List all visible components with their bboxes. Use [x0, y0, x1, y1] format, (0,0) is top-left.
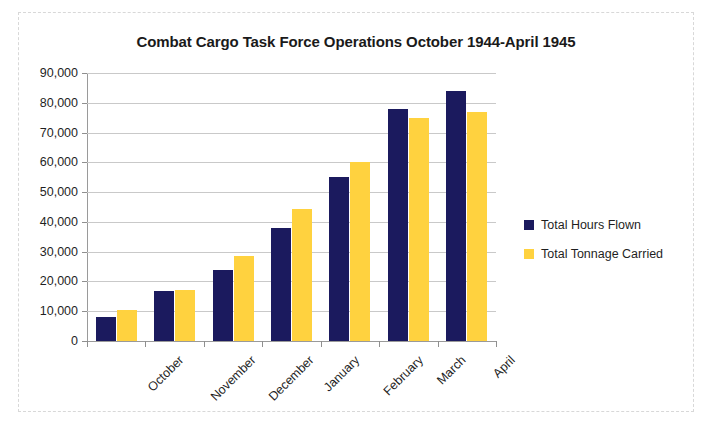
- plot-area: 010,00020,00030,00040,00050,00060,00070,…: [87, 73, 496, 341]
- y-axis-label: 10,000: [40, 304, 78, 318]
- chart-legend: Total Hours FlownTotal Tonnage Carried: [524, 218, 663, 276]
- chart-title: Combat Cargo Task Force Operations Octob…: [19, 33, 693, 50]
- y-axis-tick: [82, 281, 87, 282]
- x-axis-label: November: [208, 353, 259, 404]
- bar-group: [388, 73, 429, 341]
- chart-frame: Combat Cargo Task Force Operations Octob…: [18, 12, 694, 412]
- x-axis-label: December: [266, 353, 317, 404]
- bar[interactable]: [446, 91, 466, 341]
- bar[interactable]: [292, 209, 312, 342]
- bar[interactable]: [96, 317, 116, 341]
- bar-group: [96, 73, 137, 341]
- legend-label: Total Tonnage Carried: [541, 247, 663, 261]
- x-axis-tick: [262, 341, 263, 347]
- bar-group: [271, 73, 312, 341]
- legend-item[interactable]: Total Hours Flown: [524, 218, 663, 232]
- bar[interactable]: [213, 270, 233, 341]
- y-axis-label: 70,000: [40, 126, 78, 140]
- y-axis-tick: [82, 133, 87, 134]
- bar-group: [154, 73, 195, 341]
- y-axis-label: 80,000: [40, 96, 78, 110]
- bar[interactable]: [175, 290, 195, 341]
- bar-group: [446, 73, 487, 341]
- y-axis-tick: [82, 73, 87, 74]
- gridline: [87, 341, 496, 342]
- y-axis-label: 20,000: [40, 274, 78, 288]
- x-axis-label: February: [381, 353, 426, 398]
- bar-group: [213, 73, 254, 341]
- x-axis-label: March: [435, 353, 469, 387]
- x-axis-tick: [379, 341, 380, 347]
- bar[interactable]: [467, 112, 487, 341]
- x-axis-tick: [438, 341, 439, 347]
- y-axis-label: 90,000: [40, 66, 78, 80]
- bar[interactable]: [271, 228, 291, 341]
- bar[interactable]: [154, 291, 174, 341]
- x-axis-tick: [145, 341, 146, 347]
- bar[interactable]: [329, 177, 349, 341]
- x-axis-tick: [87, 341, 88, 347]
- y-axis-label: 30,000: [40, 245, 78, 259]
- y-axis-tick: [82, 103, 87, 104]
- legend-label: Total Hours Flown: [541, 218, 641, 232]
- y-axis-tick: [82, 192, 87, 193]
- y-axis-tick: [82, 162, 87, 163]
- y-axis-label: 50,000: [40, 185, 78, 199]
- bar[interactable]: [388, 109, 408, 341]
- x-axis-tick: [204, 341, 205, 347]
- legend-item[interactable]: Total Tonnage Carried: [524, 247, 663, 261]
- y-axis-label: 0: [71, 334, 78, 348]
- bar[interactable]: [234, 256, 254, 341]
- bar[interactable]: [350, 162, 370, 341]
- y-axis-label: 60,000: [40, 155, 78, 169]
- y-axis-tick: [82, 252, 87, 253]
- x-axis-label: April: [490, 353, 518, 381]
- x-axis-label: October: [145, 353, 186, 394]
- x-axis-label: January: [321, 353, 362, 394]
- y-axis-tick: [82, 311, 87, 312]
- bar[interactable]: [117, 310, 137, 341]
- bar[interactable]: [409, 118, 429, 341]
- x-axis-tick: [321, 341, 322, 347]
- legend-swatch-icon: [524, 220, 534, 230]
- y-axis-label: 40,000: [40, 215, 78, 229]
- y-axis-tick: [82, 222, 87, 223]
- legend-swatch-icon: [524, 249, 534, 259]
- x-axis-tick: [496, 341, 497, 347]
- bar-group: [329, 73, 370, 341]
- y-axis-line: [87, 73, 88, 341]
